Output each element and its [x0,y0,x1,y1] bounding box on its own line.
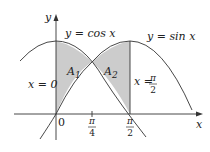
area-between-curves-diagram: y x 0 y = cos x y = sin x A1 A2 x = 0 x … [0,0,210,152]
right-boundary-denominator: 2 [150,85,156,95]
cosine-curve-label: y = cos x [64,27,116,40]
tick-label-pi-over-2-den: 2 [127,128,133,138]
x-axis-arrow-icon [196,112,203,117]
left-boundary-label: x = 0 [28,78,57,91]
y-axis-arrow-icon [54,14,59,21]
origin-label: 0 [58,116,65,129]
right-boundary-numerator: π [149,73,157,83]
tick-label-pi-over-4-den: 4 [89,128,95,138]
y-axis-label: y [44,11,52,24]
sine-curve-label: y = sin x [146,30,196,43]
tick-label-pi-over-2-num: π [126,116,134,126]
x-axis-label: x [196,118,203,131]
tick-label-pi-over-4-num: π [88,116,96,126]
